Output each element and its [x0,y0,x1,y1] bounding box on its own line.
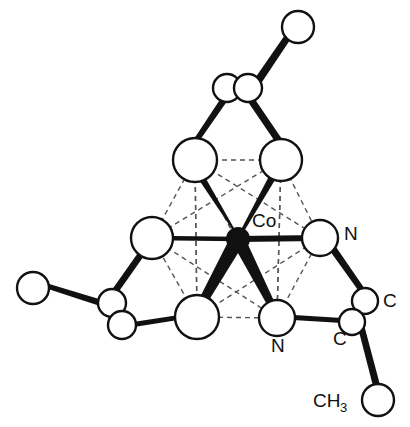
nitrogen-atom-circle [302,220,338,256]
ligand-bond-wedge [45,283,99,305]
methyl-atom-circle [17,272,49,304]
methyl-atom-circle [362,384,394,416]
molecular-structure-figure: Co N N C C CH 3 [0,0,410,427]
cobalt-atom-circle [227,228,249,250]
nitrogen-atom-circle [131,217,173,259]
carbon-atom-circle [234,74,262,102]
nitrogen-atom-circle [173,138,217,182]
ligand-atoms-group [17,11,394,416]
label-cobalt: Co [252,210,276,231]
structure-canvas: Co N N C C CH 3 [0,0,410,427]
carbon-atom-circle [108,311,136,339]
label-carbon-lower: C [333,328,347,349]
carbon-atom-circle [282,11,314,43]
nitrogen-atom-circle [259,300,295,336]
nitrogen-atom-circle [260,139,302,181]
label-carbon-upper: C [383,290,397,311]
ligand-bond-wedge [293,315,342,323]
label-methyl: CH [313,390,340,411]
label-methyl-subscript: 3 [340,400,347,415]
nitrogen-atom-circle [175,295,219,339]
label-methyl-group: CH 3 [313,390,347,415]
ligand-bond-wedge [133,315,179,327]
label-nitrogen-bottom: N [271,335,285,356]
label-nitrogen-right: N [344,223,358,244]
